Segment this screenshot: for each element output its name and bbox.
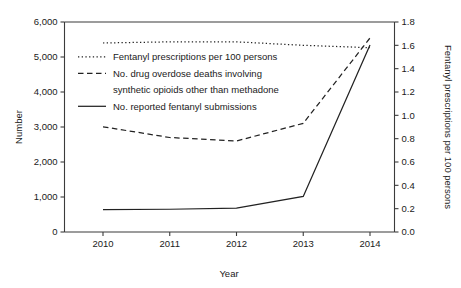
y-tick-label-right: 1.0 <box>402 110 415 121</box>
line-chart: 01,0002,0003,0004,0005,0006,000 0.00.20.… <box>0 0 461 288</box>
legend-label: No. reported fentanyl submissions <box>113 101 257 112</box>
y-axis-right-ticks: 0.00.20.40.60.81.01.21.41.61.8 <box>395 16 415 237</box>
y-tick-label-right: 0.6 <box>402 156 415 167</box>
y-tick-label-left: 5,000 <box>34 51 58 62</box>
y-tick-label-left: 4,000 <box>34 86 58 97</box>
y-tick-label-right: 0.0 <box>402 226 415 237</box>
legend-label: No. drug overdose deaths involving <box>113 68 262 79</box>
y-tick-label-left: 6,000 <box>34 16 58 27</box>
y-tick-label-left: 3,000 <box>34 121 58 132</box>
x-tick-label: 2014 <box>359 238 380 249</box>
y-tick-label-right: 1.2 <box>402 86 415 97</box>
y-tick-label-right: 0.4 <box>402 180 415 191</box>
x-axis-ticks: 20102011201220132014 <box>92 232 380 249</box>
chart-figure: 01,0002,0003,0004,0005,0006,000 0.00.20.… <box>0 0 461 288</box>
x-tick-label: 2013 <box>293 238 314 249</box>
x-tick-label: 2010 <box>92 238 113 249</box>
x-axis-title: Year <box>219 268 238 279</box>
y-tick-label-right: 1.8 <box>402 16 415 27</box>
x-tick-label: 2011 <box>160 238 180 249</box>
legend-label: synthetic opioids other than methadone <box>113 84 279 95</box>
y-axis-left-title: Number <box>13 110 24 144</box>
y-tick-label-right: 0.8 <box>402 133 415 144</box>
y-tick-label-right: 1.6 <box>402 40 415 51</box>
x-tick-label: 2012 <box>226 238 247 249</box>
y-tick-label-left: 2,000 <box>34 156 58 167</box>
data-series-group <box>103 38 370 210</box>
chart-legend: Fentanyl prescriptions per 100 personsNo… <box>78 51 279 112</box>
y-tick-label-right: 0.2 <box>402 203 415 214</box>
y-tick-label-left: 1,000 <box>34 191 58 202</box>
y-tick-label-right: 1.4 <box>402 63 415 74</box>
series-line-dotted <box>103 42 370 48</box>
legend-label: Fentanyl prescriptions per 100 persons <box>113 51 277 62</box>
y-axis-right-title: Fentanyl prescriptions per 100 persons <box>443 45 454 209</box>
y-tick-label-left: 0 <box>52 226 57 237</box>
y-axis-left-ticks: 01,0002,0003,0004,0005,0006,000 <box>34 16 65 237</box>
